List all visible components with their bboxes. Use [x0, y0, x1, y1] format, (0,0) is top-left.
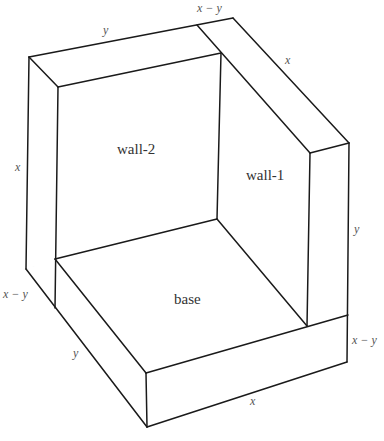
wall-1-front-face	[307, 143, 349, 326]
dim-base-right-thickness: x − y	[351, 333, 377, 347]
dim-base-depth: y	[72, 346, 79, 360]
edge-base-front-corner	[146, 373, 147, 427]
dim-base-width: x	[249, 394, 256, 408]
dim-top-right-thickness: x − y	[196, 1, 222, 15]
wall-2-side-face	[26, 57, 58, 269]
label-wall-2: wall-2	[117, 141, 155, 157]
dim-left-thickness: x − y	[2, 287, 28, 301]
dim-right-height: y	[353, 222, 360, 236]
dim-left-height: x	[14, 160, 21, 174]
label-wall-1: wall-1	[246, 167, 284, 183]
dim-top-left-edge: y	[102, 23, 109, 37]
label-base: base	[174, 291, 201, 307]
dim-top-right-edge: x	[284, 53, 291, 67]
box-assembly-diagram: wall-2 wall-1 base y x − y x x y x − y y…	[0, 0, 384, 441]
